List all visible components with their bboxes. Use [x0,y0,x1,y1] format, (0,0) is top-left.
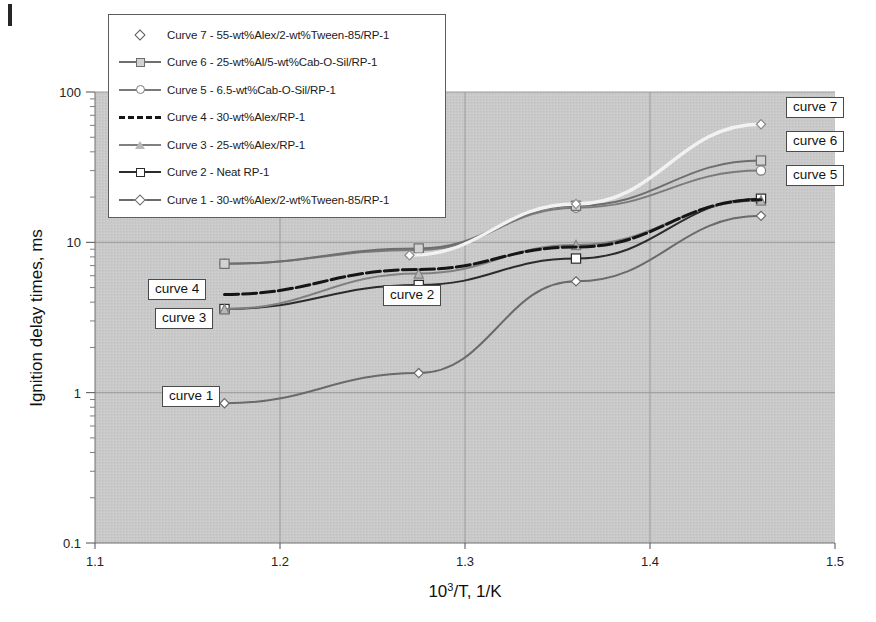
y-tick-label: 1 [74,386,81,401]
y-tick-label: 100 [59,85,81,100]
legend-key-diamond-icon [117,27,163,43]
data-point-marker [220,259,229,268]
legend-marker-square [136,58,145,67]
chart-legend: Curve 7 - 55-wt%Alex/2-wt%Tween-85/RP-1C… [108,14,446,218]
legend-key-circle-icon [117,82,163,98]
x-tick-label: 1.4 [641,554,659,569]
figure-container: 1.11.21.31.41.5 0.1110100 103/T, 1/K Ign… [0,0,876,622]
legend-marker-square [136,168,145,177]
legend-item[interactable]: Curve 7 - 55-wt%Alex/2-wt%Tween-85/RP-1 [117,21,437,49]
x-tick-label: 1.1 [86,554,104,569]
legend-item-label: Curve 3 - 25-wt%Alex/RP-1 [167,139,305,151]
data-point-marker [756,166,765,175]
legend-marker-triangle [135,141,145,149]
legend-item[interactable]: Curve 5 - 6.5-wt%Cab-O-Sil/RP-1 [117,76,437,104]
x-tick-label: 1.2 [271,554,289,569]
x-axis-title: 103/T, 1/K [428,581,502,601]
legend-item-label: Curve 4 - 30-wt%Alex/RP-1 [167,111,305,123]
legend-marker-diamond [134,194,145,205]
data-point-marker [571,254,580,263]
curve-annotation-tag: curve 6 [786,131,844,152]
y-tick-label: 10 [67,235,81,250]
legend-item-label: Curve 2 - Neat RP-1 [167,166,269,178]
curve-annotation-tag: curve 2 [383,285,441,306]
legend-item-label: Curve 7 - 55-wt%Alex/2-wt%Tween-85/RP-1 [167,29,389,41]
x-tick-label: 1.3 [456,554,474,569]
legend-item[interactable]: Curve 2 - Neat RP-1 [117,159,437,187]
legend-marker-diamond [134,29,145,40]
y-axis-tick-labels: 0.1110100 [59,85,81,551]
y-tick-label: 0.1 [63,536,81,551]
legend-item-label: Curve 1 - 30-wt%Alex/2-wt%Tween-85/RP-1 [167,194,389,206]
legend-key-none-icon [117,109,163,125]
curve-annotation-tag: curve 5 [786,165,844,186]
data-point-marker [414,244,423,253]
y-axis-title: Ignition delay times, ms [27,229,46,407]
legend-item-label: Curve 6 - 25-wt%Al/5-wt%Cab-O-Sil/RP-1 [167,56,377,68]
legend-key-square-icon [117,54,163,70]
legend-item[interactable]: Curve 3 - 25-wt%Alex/RP-1 [117,131,437,159]
x-axis-tick-labels: 1.11.21.31.41.5 [86,543,844,569]
data-point-marker [756,156,765,165]
legend-item[interactable]: Curve 6 - 25-wt%Al/5-wt%Cab-O-Sil/RP-1 [117,49,437,77]
curve-annotation-tag: curve 4 [148,279,206,300]
legend-marker-circle [136,85,145,94]
legend-item[interactable]: Curve 4 - 30-wt%Alex/RP-1 [117,104,437,132]
legend-key-triangle-icon [117,137,163,153]
legend-line-sample [119,116,161,119]
curve-annotation-tag: curve 1 [162,386,220,407]
legend-item[interactable]: Curve 1 - 30-wt%Alex/2-wt%Tween-85/RP-1 [117,186,437,214]
curve-annotation-tag: curve 7 [786,97,844,118]
curve-annotation-tag: curve 3 [155,308,213,329]
y-axis-minor-ticks [86,92,95,543]
legend-key-diamond-icon [117,192,163,208]
x-tick-label: 1.5 [826,554,844,569]
legend-item-label: Curve 5 - 6.5-wt%Cab-O-Sil/RP-1 [167,84,336,96]
legend-key-square-icon [117,164,163,180]
